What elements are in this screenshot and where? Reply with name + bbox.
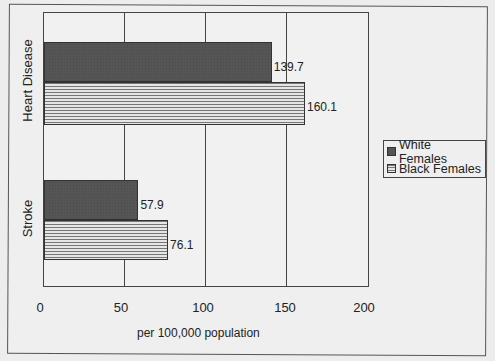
legend-item-black-females: Black Females	[387, 160, 482, 177]
legend-swatch-black-females	[387, 164, 396, 173]
x-tick-50: 50	[114, 300, 128, 315]
x-tick-0: 0	[36, 300, 43, 315]
category-label-stroke: Stroke	[20, 174, 35, 264]
x-tick-150: 150	[274, 300, 296, 315]
value-label-stroke-black: 76.1	[170, 238, 193, 252]
legend-label-black-females: Black Females	[399, 162, 481, 176]
plot-area	[43, 12, 369, 287]
category-label-heart-disease: Heart Disease	[20, 36, 35, 126]
x-tick-200: 200	[353, 300, 375, 315]
value-label-heart-black: 160.1	[307, 100, 337, 114]
bar-heart-disease-black-females	[44, 82, 305, 125]
legend: White Females Black Females	[383, 140, 486, 178]
value-label-heart-white: 139.7	[274, 60, 304, 74]
bar-stroke-black-females	[44, 220, 168, 260]
legend-item-white-females: White Females	[387, 143, 482, 160]
bar-stroke-white-females	[44, 180, 138, 220]
x-axis-label: per 100,000 population	[137, 326, 260, 340]
x-tick-100: 100	[192, 300, 214, 315]
gridline-150	[286, 13, 287, 286]
bar-heart-disease-white-females	[44, 42, 272, 82]
legend-swatch-white-females	[387, 147, 396, 156]
value-label-stroke-white: 57.9	[140, 198, 163, 212]
